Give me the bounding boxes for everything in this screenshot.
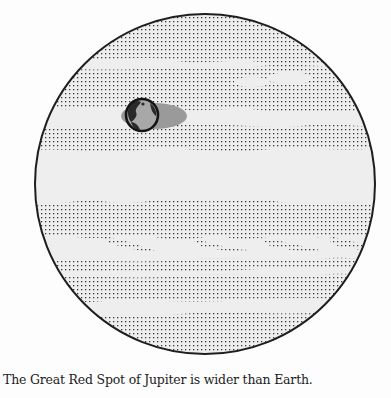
- band-south-equatorial: [30, 199, 380, 240]
- figure-caption: The Great Red Spot of Jupiter is wider t…: [3, 372, 313, 387]
- jupiter-planet: [30, 10, 380, 360]
- band-south-polar: [30, 312, 380, 360]
- jupiter-earth-diagram: [0, 0, 391, 360]
- earth-icon: [126, 99, 158, 131]
- band-north-equatorial: [30, 124, 380, 151]
- band-south-tropical: [30, 274, 380, 303]
- band-north-polar: [30, 10, 380, 64]
- band-north-temperate: [30, 65, 380, 112]
